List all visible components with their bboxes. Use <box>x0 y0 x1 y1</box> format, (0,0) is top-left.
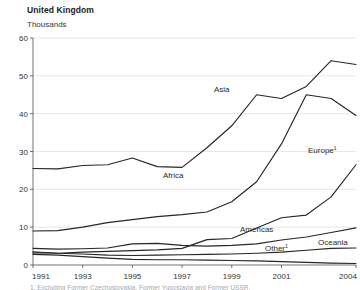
y-axis-tick-label: 0 <box>24 261 29 270</box>
chart-container: United Kingdom Thousands 010203040506019… <box>0 0 360 290</box>
series-label-africa: Africa <box>163 171 184 180</box>
x-axis-tick-label: 1997 <box>173 272 191 281</box>
x-axis-tick-label: 1993 <box>74 272 92 281</box>
footnote: 1. Excluding Former Czechoslovakia, Form… <box>30 283 356 290</box>
y-axis-tick-label: 20 <box>19 185 28 194</box>
y-axis-tick-label: 40 <box>19 110 28 119</box>
series-line-africa <box>33 95 356 231</box>
series-label-europe: Europe1 <box>308 145 337 155</box>
series-line-other <box>33 254 356 263</box>
y-axis-tick-label: 60 <box>19 34 28 43</box>
line-chart-plot: 0102030405060199119931995199719992001200… <box>0 0 360 290</box>
series-line-americas <box>33 228 356 249</box>
y-axis-tick-label: 50 <box>19 72 28 81</box>
series-label-oceania: Oceania <box>318 238 348 247</box>
x-axis-tick-label: 2001 <box>273 272 291 281</box>
series-line-europe <box>33 165 356 254</box>
series-label-americas: Americas <box>240 225 273 234</box>
series-label-other: Other1 <box>265 243 288 253</box>
y-axis-tick-label: 30 <box>19 148 28 157</box>
x-axis-tick-label: 1995 <box>123 272 141 281</box>
y-axis-tick-label: 10 <box>19 223 28 232</box>
x-axis-tick-label: 2004 <box>339 272 357 281</box>
x-axis-tick-label: 1999 <box>223 272 241 281</box>
x-axis-tick-label: 1991 <box>32 272 50 281</box>
series-label-asia: Asia <box>214 85 230 94</box>
